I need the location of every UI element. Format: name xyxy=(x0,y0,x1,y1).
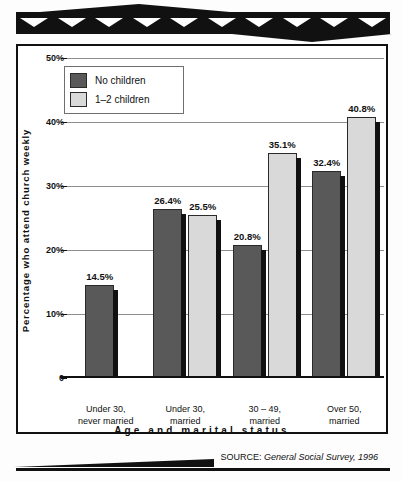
legend-swatch-icon xyxy=(70,92,87,107)
x-axis-category-label: Over 50,married xyxy=(327,404,362,427)
bottom-wedge-decoration xyxy=(14,459,214,467)
triangle-icon xyxy=(170,18,198,27)
legend-swatch-icon xyxy=(70,73,87,88)
bar-no-children xyxy=(233,245,262,378)
bar-no-children xyxy=(312,171,341,378)
bar-shadow xyxy=(113,290,118,378)
zigzag-triangle-row xyxy=(16,12,390,34)
legend-item-one-two-children: 1–2 children xyxy=(70,90,177,109)
x-axis-category-label: 30 – 49,married xyxy=(248,404,281,427)
x-axis-category-label-line: Under 30, xyxy=(165,404,205,416)
legend: No children 1–2 children xyxy=(64,66,184,114)
bar-no-children xyxy=(153,209,182,378)
bar-value-label: 32.4% xyxy=(313,157,340,168)
x-axis-category-label: Under 30,married xyxy=(165,404,205,427)
legend-label: 1–2 children xyxy=(95,94,149,105)
y-axis-title: Percentage who attend church weekly xyxy=(19,60,33,400)
bar-value-label: 40.8% xyxy=(348,103,375,114)
bar-value-label: 20.8% xyxy=(234,231,261,242)
x-axis-category-label-line: 30 – 49, xyxy=(248,404,281,416)
x-axis-baseline xyxy=(60,376,384,378)
triangle-icon xyxy=(358,18,386,27)
source-label: SOURCE: xyxy=(221,452,262,462)
triangle-icon xyxy=(283,18,311,27)
bar-one-two-children xyxy=(347,117,376,378)
x-axis-category-label: Under 30,never married xyxy=(78,404,134,427)
bar-one-two-children xyxy=(268,153,297,378)
bar-shadow xyxy=(261,250,266,378)
bar-one-two-children xyxy=(188,215,217,378)
y-axis-tick xyxy=(61,378,67,379)
bar-value-label: 26.4% xyxy=(154,195,181,206)
bar-value-label: 14.5% xyxy=(86,271,113,282)
bar-shadow xyxy=(181,214,186,378)
triangle-icon xyxy=(320,18,348,27)
triangle-icon xyxy=(95,18,123,27)
triangle-icon xyxy=(58,18,86,27)
legend-item-no-children: No children xyxy=(70,71,177,90)
bar-shadow xyxy=(340,176,345,378)
bar-shadow xyxy=(375,122,380,378)
top-wedge-decoration xyxy=(40,4,230,12)
triangle-icon xyxy=(133,18,161,27)
top-wedge-decoration-secondary xyxy=(232,34,392,42)
bar-no-children xyxy=(85,285,114,378)
source-note: SOURCE: General Social Survey, 1996 xyxy=(221,452,378,462)
source-text: General Social Survey, 1996 xyxy=(264,452,378,462)
bar-value-label: 35.1% xyxy=(269,139,296,150)
y-axis-tick-labels: 010%20%30%40%50% xyxy=(38,58,64,400)
x-axis-category-label-line: Over 50, xyxy=(327,404,362,416)
x-axis-category-label-line: Under 30, xyxy=(78,404,134,416)
triangle-icon xyxy=(20,18,48,27)
triangle-icon xyxy=(208,18,236,27)
y-axis-title-text: Percentage who attend church weekly xyxy=(21,128,32,332)
triangle-icon xyxy=(245,18,273,27)
legend-label: No children xyxy=(95,75,146,86)
bar-shadow xyxy=(296,158,301,378)
x-axis-title: Age and marital status xyxy=(16,425,388,436)
chart-page: Percentage who attend church weekly 010%… xyxy=(0,0,402,481)
top-zigzag-decoration xyxy=(16,12,390,34)
bottom-rule-decoration xyxy=(16,468,390,471)
bar-shadow xyxy=(216,220,221,378)
bar-value-label: 25.5% xyxy=(189,201,216,212)
